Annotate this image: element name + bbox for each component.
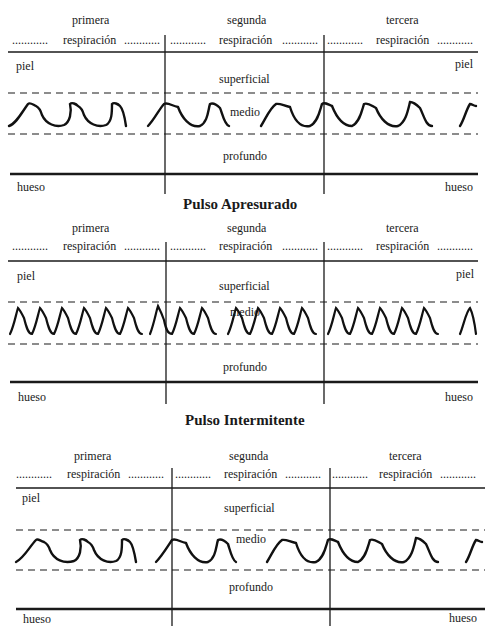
layer-label-bone-right: hueso [449, 612, 477, 624]
breath-label: respiración [379, 468, 432, 480]
column-ordinal: tercera [386, 14, 419, 26]
panel-title: Pulso Apresurado [183, 197, 297, 212]
dotted-leader: ............ [12, 240, 48, 252]
layer-label-superficial: superficial [219, 280, 270, 292]
dotted-leader: ............ [332, 468, 368, 480]
layer-label-bone-right: hueso [445, 181, 473, 193]
panel-title: Pulso Intermitente [185, 413, 305, 428]
dotted-leader: ............ [282, 240, 318, 252]
dotted-leader: ............ [128, 468, 164, 480]
breath-label: respiración [63, 240, 116, 252]
dotted-leader: ............ [124, 34, 160, 46]
column-ordinal: segunda [229, 450, 268, 462]
dotted-leader: ............ [170, 240, 206, 252]
layer-label-deep: profundo [229, 581, 273, 593]
column-ordinal: primera [72, 14, 109, 26]
breath-label: respiración [224, 468, 277, 480]
layer-label-skin-right: piel [456, 268, 474, 280]
layer-label-middle: medio [236, 533, 266, 545]
layer-label-bone: hueso [17, 181, 45, 193]
column-ordinal: primera [74, 450, 111, 462]
layer-label-middle: medio [230, 106, 260, 118]
dotted-leader: ............ [282, 34, 318, 46]
layer-label-bone: hueso [23, 613, 51, 625]
layer-label-deep: profundo [223, 361, 267, 373]
dotted-leader: ............ [124, 240, 160, 252]
dotted-leader: ............ [437, 34, 473, 46]
layer-label-superficial: superficial [224, 502, 275, 514]
layer-label-bone: hueso [18, 391, 46, 403]
dotted-leader: ............ [175, 468, 211, 480]
column-ordinal: segunda [227, 222, 266, 234]
layer-label-skin: piel [16, 60, 34, 72]
dotted-leader: ............ [327, 34, 363, 46]
layer-label-skin: piel [17, 270, 35, 282]
breath-label: respiración [63, 34, 116, 46]
breath-label: respiración [376, 240, 429, 252]
layer-label-skin-right: piel [455, 58, 473, 70]
dotted-leader: ............ [170, 34, 206, 46]
layer-label-superficial: superficial [219, 73, 270, 85]
breath-label: respiración [67, 468, 120, 480]
dotted-leader: ............ [285, 468, 321, 480]
layer-label-deep: profundo [223, 150, 267, 162]
column-ordinal: tercera [389, 450, 422, 462]
breath-label: respiración [219, 240, 272, 252]
layer-label-bone-right: hueso [445, 391, 473, 403]
column-ordinal: primera [72, 222, 109, 234]
dotted-leader: ............ [327, 240, 363, 252]
breath-label: respiración [219, 34, 272, 46]
dotted-leader: ............ [440, 468, 476, 480]
column-ordinal: segunda [227, 14, 266, 26]
breath-label: respiración [376, 34, 429, 46]
layer-label-middle: medio [230, 306, 260, 318]
dotted-leader: ............ [16, 468, 52, 480]
layer-label-skin: piel [22, 492, 40, 504]
dotted-leader: ............ [437, 240, 473, 252]
dotted-leader: ............ [12, 34, 48, 46]
column-ordinal: tercera [386, 222, 419, 234]
